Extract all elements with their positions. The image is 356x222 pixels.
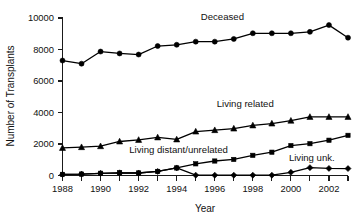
x-axis-group: 19881990199219941996199820002002	[52, 176, 348, 195]
data-point-square	[251, 153, 255, 157]
y-axis-tick-labels: 0200040006000800010000	[28, 12, 54, 181]
y-tick-label: 6000	[33, 75, 54, 86]
data-point-circle	[269, 31, 274, 36]
data-point-circle	[193, 39, 198, 44]
series-label-2: Living distant/unrelated	[129, 144, 228, 155]
data-point-diamond	[231, 172, 237, 178]
x-axis-tick-labels: 19881990199219941996199820002002	[52, 183, 339, 194]
data-point-diamond	[307, 165, 313, 171]
series-label-0: Deceased	[201, 11, 244, 22]
data-point-square	[194, 162, 198, 166]
x-tick-label: 1996	[204, 183, 225, 194]
data-point-circle	[231, 36, 236, 41]
transplants-line-chart-figure: 0200040006000800010000 19881990199219941…	[0, 0, 356, 222]
data-point-diamond	[250, 172, 256, 178]
data-point-circle	[60, 58, 65, 63]
data-point-diamond	[326, 165, 332, 171]
data-point-diamond	[193, 172, 199, 178]
data-point-circle	[212, 39, 217, 44]
y-tick-label: 4000	[33, 107, 54, 118]
y-tick-label: 10000	[28, 12, 54, 23]
y-tick-label: 0	[49, 170, 54, 181]
x-axis-title: Year	[195, 203, 216, 214]
data-point-square	[308, 142, 312, 146]
data-point-circle	[288, 31, 293, 36]
data-point-square	[346, 133, 350, 137]
y-axis-ticks	[58, 18, 63, 176]
x-tick-label: 2000	[280, 183, 301, 194]
data-point-square	[270, 150, 274, 154]
data-point-circle	[117, 51, 122, 56]
data-point-square	[213, 159, 217, 163]
data-point-square	[289, 143, 293, 147]
data-point-diamond	[345, 166, 351, 172]
data-point-square	[232, 157, 236, 161]
x-axis-ticks	[63, 176, 349, 181]
x-tick-label: 1994	[166, 183, 187, 194]
data-point-diamond	[269, 172, 275, 178]
data-point-circle	[326, 23, 331, 28]
x-tick-label: 1988	[52, 183, 73, 194]
x-tick-label: 1990	[90, 183, 111, 194]
data-point-circle	[174, 42, 179, 47]
series-line-3	[63, 168, 349, 176]
series-line-0	[63, 25, 349, 64]
data-point-circle	[136, 52, 141, 57]
series-label-3: Living unk.	[289, 152, 335, 163]
data-point-circle	[98, 49, 103, 54]
y-axis-title: Number of Transplants	[5, 45, 16, 146]
y-tick-label: 8000	[33, 44, 54, 55]
y-axis-group: 0200040006000800010000	[28, 12, 63, 181]
data-point-diamond	[212, 172, 218, 178]
data-point-circle	[155, 44, 160, 49]
y-tick-label: 2000	[33, 138, 54, 149]
data-point-circle	[79, 61, 84, 66]
data-point-diamond	[288, 169, 294, 175]
series-label-1: Living related	[217, 98, 274, 109]
x-tick-label: 1992	[128, 183, 149, 194]
chart-canvas: 0200040006000800010000 19881990199219941…	[0, 0, 356, 222]
x-tick-label: 2002	[319, 183, 340, 194]
x-tick-label: 1998	[242, 183, 263, 194]
data-point-circle	[346, 35, 351, 40]
data-point-circle	[250, 31, 255, 36]
data-point-circle	[307, 29, 312, 34]
data-point-square	[327, 138, 331, 142]
